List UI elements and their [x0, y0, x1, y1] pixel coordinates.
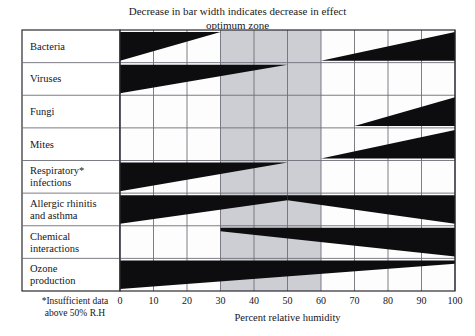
chart-svg: BacteriaVirusesFungiMitesRespiratory*inf…: [0, 0, 475, 336]
row-label-respiratory-infections: infections: [30, 177, 71, 188]
x-tick-label-50: 50: [283, 295, 293, 306]
x-tick-label-100: 100: [448, 295, 463, 306]
footnote-line2: above 50% R.H: [45, 308, 106, 318]
chart-container: Decrease in bar width indicates decrease…: [0, 0, 475, 336]
row-label-chemical-interactions: interactions: [30, 243, 79, 254]
footnote-line1: *Insufficient data: [42, 296, 109, 306]
row-label-allergic-rhinitis-and-asthma: and asthma: [30, 210, 78, 221]
x-tick-label-30: 30: [216, 295, 226, 306]
row-label-ozone-production: production: [30, 275, 76, 286]
x-tick-label-20: 20: [182, 295, 192, 306]
row-label-viruses: Viruses: [30, 73, 61, 84]
row-label-mites: Mites: [30, 139, 54, 150]
x-tick-label-70: 70: [350, 295, 360, 306]
row-label-bacteria: Bacteria: [30, 41, 65, 52]
row-label-fungi: Fungi: [30, 106, 55, 117]
x-tick-label-80: 80: [383, 295, 393, 306]
x-tick-label-40: 40: [249, 295, 259, 306]
x-tick-label-0: 0: [118, 295, 123, 306]
row-label-chemical-interactions: Chemical: [30, 231, 70, 242]
x-tick-label-90: 90: [417, 295, 427, 306]
x-tick-label-10: 10: [149, 295, 159, 306]
x-axis-title: Percent relative humidity: [234, 312, 341, 323]
row-label-respiratory-infections: Respiratory*: [30, 165, 84, 176]
row-label-allergic-rhinitis-and-asthma: Allergic rhinitis: [30, 198, 97, 209]
x-tick-label-60: 60: [316, 295, 326, 306]
row-label-ozone-production: Ozone: [30, 263, 58, 274]
